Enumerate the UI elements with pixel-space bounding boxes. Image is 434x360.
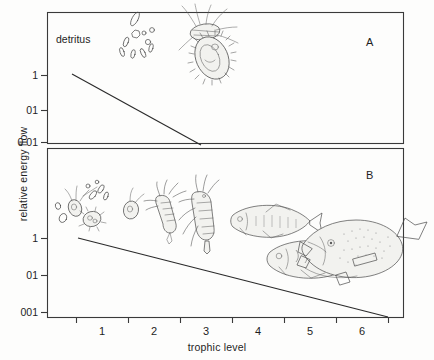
panel-b-label: B [366, 169, 373, 181]
krill-shrimp-illustration [179, 175, 219, 254]
panel-b-ytick-1: 1 [0, 232, 38, 244]
xtick-label-1: 1 [92, 325, 112, 337]
zooplankton-illustration [79, 207, 106, 231]
xtick-label-2: 2 [144, 325, 164, 337]
xtick-label-6: 6 [352, 325, 372, 337]
detritus-label: detritus [56, 33, 90, 45]
panel-a-trend-line [72, 74, 201, 145]
panel-a-frame [48, 13, 404, 144]
panel-b-yticks [41, 239, 48, 313]
panel-a-label: A [366, 36, 373, 48]
panel-a-yticks [41, 76, 48, 143]
small-fish-illustration [231, 204, 322, 238]
x-axis-ticks [77, 318, 389, 324]
xtick-label-5: 5 [300, 325, 320, 337]
xtick-label-3: 3 [196, 325, 216, 337]
copepod-illustration [144, 180, 186, 244]
y-axis-label: relative energy flow [17, 99, 29, 249]
panel-a-ytick-01: 01 [0, 104, 38, 116]
x-axis-label: trophic level [0, 341, 434, 353]
panel-b-ytick-001: 001 [0, 306, 38, 318]
panel-a-ytick-001: 0 01 [0, 136, 38, 148]
figure-container: relative energy flow trophic level detri… [0, 0, 434, 360]
zooplankton-ovoid-illustration [122, 188, 144, 220]
bacteria-illustration [119, 11, 155, 59]
xtick-label-4: 4 [248, 325, 268, 337]
panel-a-ytick-1: 1 [0, 69, 38, 81]
panel-b-ytick-01: 01 [0, 269, 38, 281]
